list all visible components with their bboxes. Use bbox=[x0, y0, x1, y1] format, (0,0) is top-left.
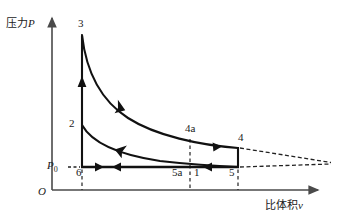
arrow-base-left-near5 bbox=[203, 162, 212, 171]
point-label-5a: 5a bbox=[172, 167, 182, 178]
arrow-base-left-near6 bbox=[112, 162, 121, 171]
point-label-4: 4 bbox=[238, 132, 244, 143]
point-label-4a: 4a bbox=[185, 123, 195, 134]
arrow-base-right bbox=[95, 162, 104, 171]
point-label-5: 5 bbox=[229, 167, 235, 178]
dashed-tail-lower bbox=[240, 164, 331, 167]
point-label-3: 3 bbox=[78, 18, 84, 29]
pv-diagram-figure: 压力P 比体积v O P0 3 2 6 5a 1 5 4a 4 bbox=[0, 0, 342, 215]
curve-expansion-3-4 bbox=[82, 35, 238, 148]
y-axis-symbol: P bbox=[28, 17, 35, 29]
x-axis-label-text: 比体积 bbox=[265, 199, 298, 211]
x-axis-symbol: v bbox=[298, 199, 303, 211]
p0-symbol: P bbox=[47, 159, 54, 171]
dashed-tail-upper bbox=[240, 148, 331, 163]
y-axis-label-text: 压力 bbox=[6, 17, 28, 29]
diagram-canvas bbox=[0, 0, 342, 215]
point-label-6: 6 bbox=[76, 167, 82, 178]
arrow-vertical-up bbox=[78, 76, 87, 87]
point-label-2: 2 bbox=[69, 118, 75, 129]
arrow-upper-right-near4 bbox=[213, 142, 222, 151]
p0-label: P0 bbox=[47, 159, 58, 174]
y-axis-label: 压力P bbox=[6, 14, 35, 30]
p0-subscript: 0 bbox=[54, 165, 58, 174]
x-axis-label: 比体积v bbox=[265, 196, 303, 212]
origin-label: O bbox=[38, 185, 46, 197]
point-label-1: 1 bbox=[194, 167, 200, 178]
